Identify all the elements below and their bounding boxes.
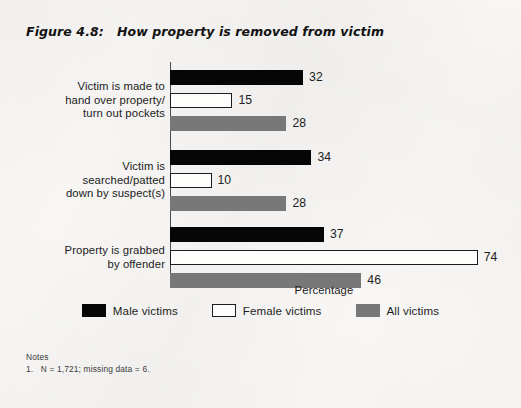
- legend-item: Female victims: [212, 304, 322, 317]
- legend-label: Male victims: [113, 304, 178, 317]
- bar-value-label: 10: [218, 172, 232, 188]
- notes-heading: Notes: [26, 352, 150, 364]
- bar-value-label: 15: [238, 92, 252, 108]
- legend-label: Female victims: [243, 304, 322, 317]
- bar-all: [170, 196, 286, 211]
- legend-swatch-male: [82, 304, 106, 317]
- bar-value-label: 32: [309, 69, 323, 85]
- bar-row: 28: [170, 196, 286, 211]
- x-axis-label: Percentage: [170, 284, 478, 296]
- chart-plot-area: Victim is made to hand over property/ tu…: [0, 62, 521, 294]
- bar-row: 10: [170, 173, 212, 188]
- bar-value-label: 34: [317, 149, 331, 165]
- bar-row: 32: [170, 70, 303, 85]
- legend-item: All victims: [356, 304, 440, 317]
- bar-group: Victim is made to hand over property/ tu…: [0, 70, 521, 131]
- category-label: Property is grabbed by offender: [65, 244, 166, 271]
- legend-swatch-all: [356, 304, 380, 317]
- bar-row: 37: [170, 227, 324, 242]
- figure-title-text: How property is removed from victim: [117, 24, 384, 39]
- bar-group: Property is grabbed by offender377446: [0, 227, 521, 288]
- bar-male: [170, 70, 303, 85]
- bar-value-label: 28: [292, 115, 306, 131]
- bar-group: Victim is searched/patted down by suspec…: [0, 150, 521, 211]
- legend-swatch-female: [212, 304, 236, 317]
- notes-block: Notes 1. N = 1,721; missing data = 6.: [26, 352, 150, 375]
- bar-value-label: 74: [484, 249, 498, 265]
- chart-legend: Male victimsFemale victimsAll victims: [0, 304, 521, 317]
- bar-row: 34: [170, 150, 311, 165]
- category-label: Victim is made to hand over property/ tu…: [65, 80, 165, 120]
- bar-value-label: 37: [330, 226, 344, 242]
- bar-value-label: 28: [292, 195, 306, 211]
- legend-label: All victims: [387, 304, 440, 317]
- bar-male: [170, 150, 311, 165]
- figure-page: Figure 4.8:How property is removed from …: [0, 0, 521, 408]
- bar-female: [170, 173, 212, 188]
- bar-row: 74: [170, 250, 478, 265]
- bar-female: [170, 93, 232, 108]
- bar-male: [170, 227, 324, 242]
- bar-row: 28: [170, 116, 286, 131]
- figure-number: Figure 4.8:: [26, 24, 104, 39]
- bar-row: 15: [170, 93, 232, 108]
- figure-title: Figure 4.8:How property is removed from …: [26, 24, 384, 39]
- category-label: Victim is searched/patted down by suspec…: [66, 160, 165, 200]
- legend-item: Male victims: [82, 304, 178, 317]
- bar-female: [170, 250, 478, 265]
- bar-all: [170, 116, 286, 131]
- note-item: 1. N = 1,721; missing data = 6.: [26, 364, 150, 376]
